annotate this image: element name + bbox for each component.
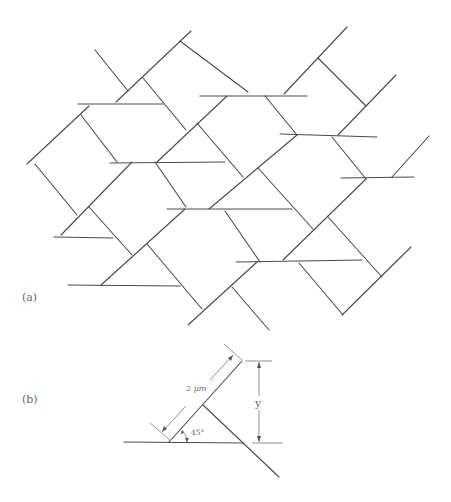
- network-segment: [258, 168, 313, 229]
- panel-b-label: (b): [22, 393, 38, 406]
- network-segment: [299, 263, 343, 315]
- network-segment: [328, 217, 382, 277]
- network-segment: [225, 211, 260, 262]
- network-segment: [61, 162, 132, 235]
- network-segment: [110, 162, 225, 163]
- network-segment: [197, 123, 243, 177]
- height-label: y: [254, 397, 262, 410]
- network-segment: [54, 237, 113, 238]
- network-segment: [27, 106, 89, 164]
- network-segment: [155, 162, 186, 207]
- network-segment: [332, 137, 366, 179]
- network-segment: [284, 27, 347, 94]
- network-segment: [147, 244, 202, 309]
- extension-line-upper: [224, 344, 242, 360]
- panel-b-geometry: 2 μm 45° y: [124, 344, 283, 477]
- network-segment: [81, 115, 117, 162]
- angle-label: 45°: [191, 428, 205, 437]
- length-label: 2 μm: [185, 384, 207, 393]
- network-segment: [318, 58, 366, 106]
- network-segment: [68, 285, 180, 286]
- network-segment: [35, 164, 77, 215]
- panel-a-label: (a): [22, 291, 37, 304]
- arrowhead-icon: [185, 438, 189, 442]
- network-segment: [188, 262, 257, 325]
- extension-line-lower: [150, 423, 170, 440]
- network-segment: [265, 96, 297, 135]
- network-segment: [392, 136, 429, 177]
- network-segment: [89, 207, 132, 255]
- network-segment: [157, 96, 227, 162]
- inclined-segment: [169, 361, 242, 442]
- network-segment: [341, 177, 414, 178]
- base-line: [124, 442, 244, 443]
- panel-a-network: [27, 27, 429, 330]
- descending-segment: [203, 405, 279, 477]
- network-segment: [209, 135, 297, 209]
- network-segment: [180, 41, 248, 92]
- network-segment: [236, 260, 362, 262]
- network-segment: [342, 247, 411, 315]
- network-segment: [95, 50, 128, 91]
- arrowhead-icon: [257, 362, 261, 368]
- arrowhead-icon: [257, 436, 261, 442]
- network-segment: [232, 287, 269, 330]
- network-segment: [338, 75, 396, 135]
- network-segment: [283, 179, 366, 260]
- figure-canvas: (a) 2 μm 45° y (b): [0, 0, 451, 502]
